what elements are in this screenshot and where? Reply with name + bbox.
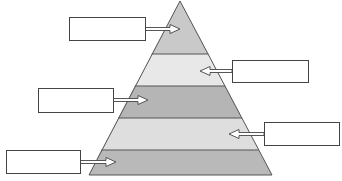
pyramid-level-5 [89, 150, 272, 175]
label-box-level-5[interactable] [6, 150, 81, 174]
label-box-level-2[interactable] [232, 60, 309, 83]
label-box-level-4[interactable] [264, 122, 340, 146]
pyramid-level-3 [118, 86, 242, 118]
label-box-level-3[interactable] [38, 88, 114, 113]
label-box-level-1[interactable] [69, 17, 146, 41]
pyramid-diagram [0, 0, 342, 181]
